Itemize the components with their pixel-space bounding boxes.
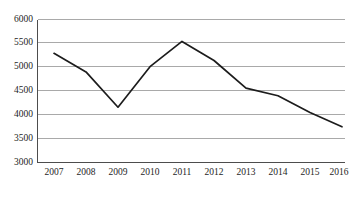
x-tick-2009: 2009 (109, 167, 128, 177)
x-tick-2007: 2007 (45, 167, 64, 177)
x-tick-2008: 2008 (77, 167, 96, 177)
y-tick-5500: 5500 (14, 37, 33, 47)
x-tick-2013: 2013 (237, 167, 256, 177)
y-tick-5000: 5000 (14, 61, 33, 71)
y-tick-4000: 4000 (14, 109, 33, 119)
y-tick-4500: 4500 (14, 85, 33, 95)
x-tick-2011: 2011 (173, 167, 192, 177)
y-tick-3000: 3000 (14, 157, 33, 167)
chart-canvas: 6000 5500 5000 4500 4000 3500 3000 2007 … (0, 0, 354, 198)
line-chart: 6000 5500 5000 4500 4000 3500 3000 2007 … (0, 0, 354, 198)
x-tick-2012: 2012 (205, 167, 224, 177)
y-tick-6000: 6000 (14, 14, 33, 24)
x-tick-2015: 2015 (301, 167, 320, 177)
y-tick-3500: 3500 (14, 133, 33, 143)
x-tick-2014: 2014 (269, 167, 288, 177)
x-tick-2016: 2016 (330, 167, 349, 177)
x-tick-2010: 2010 (141, 167, 160, 177)
